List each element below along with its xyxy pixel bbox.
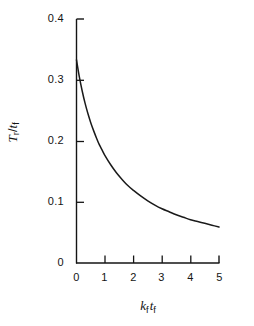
y-axis-ticks bbox=[77, 80, 85, 202]
x-tick-label-0: 0 bbox=[66, 272, 87, 283]
figure-container: 0.4 0.3 0.2 0.1 0 0 1 2 3 4 5 Tr/tf kf t… bbox=[0, 0, 254, 326]
x-axis-label-second-sub: f bbox=[153, 305, 156, 315]
y-tick-label-0.4: 0.4 bbox=[24, 13, 64, 24]
y-axis-label-denominator-sub: f bbox=[11, 122, 21, 125]
x-tick-label-2: 2 bbox=[123, 272, 144, 283]
y-axis-label: Tr/tf bbox=[5, 97, 22, 167]
data-series-curve bbox=[77, 60, 220, 227]
figure-caption bbox=[6, 318, 252, 326]
x-tick-label-4: 4 bbox=[180, 272, 201, 283]
y-axis-label-numerator: T bbox=[5, 135, 20, 142]
x-tick-label-3: 3 bbox=[151, 272, 172, 283]
x-tick-label-5: 5 bbox=[209, 272, 230, 283]
y-tick-label-0.2: 0.2 bbox=[24, 135, 64, 146]
x-tick-label-1: 1 bbox=[94, 272, 115, 283]
x-axis-ticks bbox=[105, 256, 191, 264]
y-axis-label-slash: / bbox=[5, 128, 20, 132]
y-axis-label-denominator: t bbox=[5, 125, 20, 129]
x-axis-label: kf tf bbox=[76, 298, 220, 315]
y-axis-label-numerator-sub: r bbox=[11, 132, 21, 135]
x-axis-label-first-sub: f bbox=[146, 305, 149, 315]
y-tick-label-0.3: 0.3 bbox=[24, 74, 64, 85]
y-tick-label-0: 0 bbox=[24, 257, 64, 268]
y-tick-label-0.1: 0.1 bbox=[24, 196, 64, 207]
